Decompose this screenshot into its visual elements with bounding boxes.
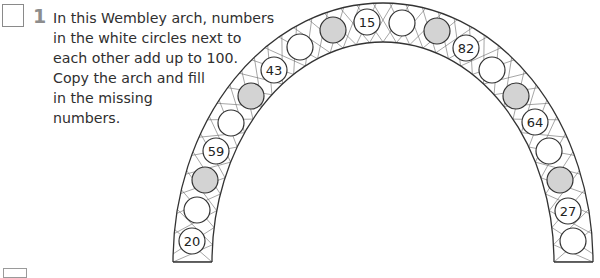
blank-answer-circle[interactable]	[560, 228, 586, 254]
blank-answer-circle[interactable]	[479, 57, 505, 83]
gray-circle	[238, 83, 264, 109]
blank-answer-circle[interactable]	[184, 197, 210, 223]
blank-answer-circle[interactable]	[389, 10, 415, 36]
circle-number: 64	[527, 115, 544, 130]
number-circle: 82	[453, 35, 479, 61]
number-circle: 64	[522, 109, 548, 135]
gray-circle	[424, 18, 450, 44]
circle-number: 59	[208, 144, 225, 159]
number-circle: 43	[261, 57, 287, 83]
blank-answer-circle[interactable]	[218, 110, 244, 136]
number-circle: 20	[179, 228, 205, 254]
next-question-checkbox[interactable]	[3, 268, 27, 278]
gray-circle	[503, 83, 529, 109]
number-circle: 15	[354, 9, 380, 35]
circle-number: 27	[560, 204, 577, 219]
blank-answer-circle[interactable]	[536, 138, 562, 164]
circle-number: 15	[359, 15, 376, 30]
gray-circle	[547, 167, 573, 193]
circle-number: 20	[184, 234, 201, 249]
circle-number: 43	[266, 63, 283, 78]
circle-number: 82	[458, 41, 475, 56]
blank-answer-circle[interactable]	[287, 34, 313, 60]
gray-circle	[320, 17, 346, 43]
number-circle: 27	[555, 198, 581, 224]
gray-circle	[192, 167, 218, 193]
number-circle: 59	[203, 138, 229, 164]
